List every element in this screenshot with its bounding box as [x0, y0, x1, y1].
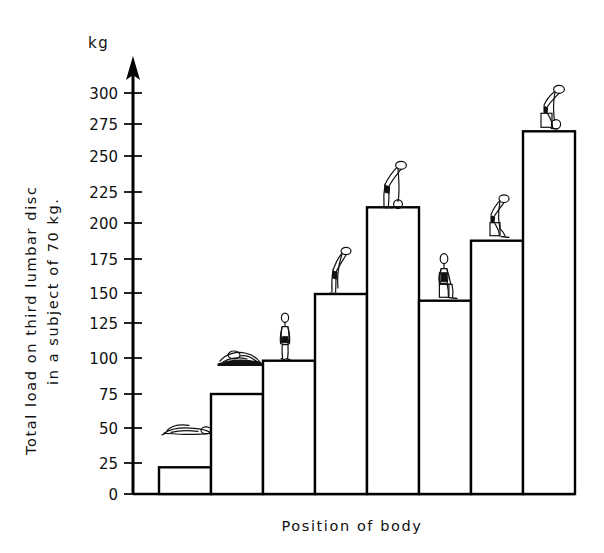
bar-4[interactable]: [315, 294, 367, 494]
bar-group-8[interactable]: [523, 85, 575, 494]
figure-sitting-icon: [439, 254, 457, 299]
y-tick-label-0: 0: [108, 486, 118, 504]
y-tick-label-300: 300: [89, 85, 118, 103]
y-tick-label-225: 225: [89, 184, 118, 202]
bar-group-7[interactable]: [471, 195, 523, 494]
bar-6[interactable]: [419, 301, 471, 494]
y-tick-label-50: 50: [99, 420, 118, 438]
bar-8[interactable]: [523, 131, 575, 494]
figure-lying-side-icon: [218, 351, 263, 366]
lumbar-disc-load-bar-chart: 300 275 250 225 200 175 150 125 100 75 5…: [0, 0, 604, 553]
y-tick-label-25: 25: [99, 455, 118, 473]
bar-5[interactable]: [367, 207, 419, 494]
y-tick-label-250: 250: [89, 148, 118, 166]
y-tick-label-275: 275: [89, 116, 118, 134]
figure-sitting-bent-load-icon: [541, 85, 564, 129]
bar-7[interactable]: [471, 241, 523, 494]
bar-group-5[interactable]: [367, 161, 419, 494]
bar-group-3[interactable]: [263, 313, 315, 494]
bar-1[interactable]: [159, 467, 211, 494]
bar-3[interactable]: [263, 361, 315, 494]
bar-group-1[interactable]: [159, 425, 211, 494]
y-tick-label-75: 75: [99, 386, 118, 404]
y-axis-tick-labels: 300 275 250 225 200 175 150 125 100 75 5…: [89, 85, 118, 504]
figure-standing-bent-load-icon: [382, 161, 406, 208]
y-tick-label-200: 200: [89, 215, 118, 233]
figure-standing-icon: [280, 313, 290, 360]
y-axis-title-line1: Total load on third lumbar disc: [23, 185, 39, 456]
y-axis-title: Total load on third lumbar disc in a sub…: [23, 185, 61, 456]
bar-2[interactable]: [211, 394, 263, 494]
figure-lying-supine-icon: [162, 425, 211, 435]
chart-svg: 300 275 250 225 200 175 150 125 100 75 5…: [0, 0, 604, 553]
bar-group-6[interactable]: [419, 254, 471, 494]
y-tick-label-175: 175: [89, 251, 118, 269]
y-axis-unit-label: kg: [88, 34, 109, 52]
y-tick-label-100: 100: [89, 350, 118, 368]
y-tick-label-125: 125: [89, 315, 118, 333]
figure-sitting-bent-icon: [490, 195, 509, 237]
figure-standing-bent-icon: [330, 247, 351, 293]
bar-group-4[interactable]: [315, 247, 367, 494]
x-axis-title: Position of body: [281, 518, 422, 534]
y-axis-title-line2: in a subject of 70 kg.: [45, 197, 61, 385]
y-tick-label-150: 150: [89, 285, 118, 303]
bar-group-2[interactable]: [211, 351, 263, 494]
